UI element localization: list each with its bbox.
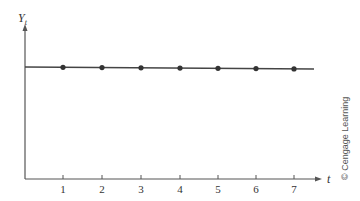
data-point xyxy=(253,66,258,71)
data-point xyxy=(177,66,182,71)
data-point xyxy=(99,65,104,70)
data-point xyxy=(215,66,220,71)
svg-text:4: 4 xyxy=(177,183,183,195)
x-axis-arrow-icon xyxy=(315,177,322,182)
x-tick-labels: 1 2 3 4 5 6 7 xyxy=(60,183,297,195)
copyright-credit: © Cengage Learning xyxy=(338,100,354,200)
data-point xyxy=(291,66,296,71)
credit-text: © Cengage Learning xyxy=(340,97,350,180)
svg-text:1: 1 xyxy=(60,183,66,195)
svg-text:7: 7 xyxy=(291,183,297,195)
svg-text:3: 3 xyxy=(138,183,144,195)
svg-text:6: 6 xyxy=(253,183,259,195)
chart: 1 2 3 4 5 6 7 Yt t xyxy=(0,0,360,201)
svg-text:2: 2 xyxy=(99,183,105,195)
x-axis-label: t xyxy=(327,172,331,186)
trend-line xyxy=(25,67,314,69)
y-axis-label: Yt xyxy=(18,11,28,27)
data-point xyxy=(60,65,65,70)
svg-text:5: 5 xyxy=(215,183,221,195)
data-point xyxy=(138,65,143,70)
